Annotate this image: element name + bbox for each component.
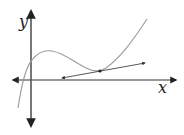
function-curve (18, 19, 147, 108)
tangent-point (98, 69, 101, 72)
x-axis-label: x (158, 78, 167, 97)
function-graph: y x (0, 0, 184, 135)
tangent-line (62, 63, 145, 78)
y-axis-label: y (18, 12, 29, 31)
